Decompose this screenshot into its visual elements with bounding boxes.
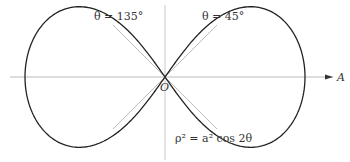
- equation-label: ρ² = a² cos 2θ: [175, 132, 252, 145]
- axis-arrow-icon: [325, 75, 333, 80]
- label-axis-a: A: [336, 71, 345, 84]
- lemniscate-diagram: θ = 135° θ = 45° O A ρ² = a² cos 2θ: [0, 0, 350, 162]
- label-origin: O: [160, 81, 169, 94]
- label-theta-135: θ = 135°: [94, 10, 143, 23]
- label-theta-45: θ = 45°: [202, 10, 244, 23]
